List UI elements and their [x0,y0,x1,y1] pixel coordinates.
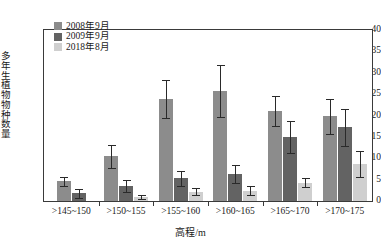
legend-item: 2008年9月 [54,21,110,32]
error-bar-cap [356,151,364,152]
error-bar-cap [217,117,225,118]
x-axis-title: 高程/m [0,224,381,239]
legend-label: 2008年9月 [66,22,110,32]
x-group-label: >170~175 [325,206,364,216]
error-bar-cap [138,195,146,196]
error-bar-cap [138,199,146,200]
perennial-plant-species-bar-chart: 多年生植物物种数量 0510152025303540 >145~150>150~… [0,0,381,241]
error-bar-cap [177,186,185,187]
x-group-label: >145~150 [52,206,91,216]
legend-swatch [54,22,62,30]
legend-item: 2018年8月 [54,42,110,53]
error-bar-line [345,109,346,147]
error-bar-cap [272,126,280,127]
error-bar-cap [60,186,68,187]
error-bar-line [181,171,182,186]
error-bar-cap [60,177,68,178]
error-bar-line [64,177,65,186]
x-tick-mark [317,202,318,206]
x-group-label: >150~155 [107,206,146,216]
error-bar-cap [123,180,131,181]
error-bar-cap [123,192,131,193]
error-bar-line [275,96,276,126]
x-group-label: >160~165 [216,206,255,216]
error-bar-line [79,189,80,198]
error-bar-line [250,186,251,195]
error-bar-line [166,80,167,118]
error-bar-line [330,99,331,134]
error-bar-cap [75,198,83,199]
error-bar-cap [217,65,225,66]
error-bar-cap [232,165,240,166]
error-bar-cap [75,189,83,190]
error-bar-cap [192,195,200,196]
error-bar-cap [341,146,349,147]
error-bar-line [360,151,361,178]
error-bar-line [126,180,127,192]
error-bar-line [111,145,112,168]
x-tick-mark [99,202,100,206]
error-bar-cap [302,178,310,179]
x-group-label: >165~170 [271,206,310,216]
error-bar-cap [326,99,334,100]
legend-swatch [54,33,62,41]
error-bar-cap [232,183,240,184]
error-bar-cap [272,96,280,97]
error-bar-line [196,188,197,196]
error-bar-cap [287,121,295,122]
error-bar-cap [356,177,364,178]
error-bar-cap [177,171,185,172]
error-bar-cap [108,168,116,169]
error-bar-cap [108,145,116,146]
error-bar-line [220,65,221,117]
x-group-label: >155~160 [161,206,200,216]
error-bar-line [290,121,291,153]
error-bar-cap [287,153,295,154]
legend: 2008年9月2009年9月2018年8月 [54,21,110,53]
error-bar-cap [247,186,255,187]
error-bar-line [305,178,306,187]
error-bar-line [235,165,236,183]
error-bar-cap [162,80,170,81]
error-bar-cap [302,187,310,188]
error-bar-cap [192,188,200,189]
error-bar-cap [162,118,170,119]
error-bar-cap [341,109,349,110]
legend-label: 2018年8月 [66,43,110,53]
bars-layer [44,30,372,201]
error-bar-cap [247,195,255,196]
legend-label: 2009年9月 [66,32,110,42]
legend-item: 2009年9月 [54,32,110,43]
error-bar-cap [326,134,334,135]
y-axis-title: 多年生植物物种数量 [0,52,13,140]
legend-swatch [54,43,62,51]
x-tick-mark [263,202,264,206]
x-tick-mark [153,202,154,206]
x-tick-mark [208,202,209,206]
